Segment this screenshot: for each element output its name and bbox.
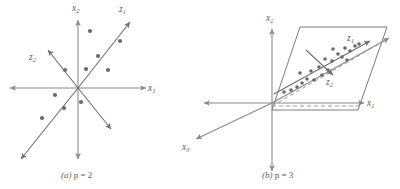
component-axis-z1-panel-b: [274, 41, 370, 94]
axis-label-x1-panel-a: x1: [147, 83, 156, 94]
axis-label-x2-panel-b: x2: [265, 13, 274, 24]
data-point: [331, 47, 335, 51]
data-point: [106, 68, 110, 72]
figure-root: x1 x2 z1 z2 (a) p = 2: [0, 0, 400, 189]
component-label-z2-panel-a: z2: [28, 52, 37, 63]
axis-label-x2-panel-a: x2: [71, 3, 80, 14]
axis-label-x3-panel-b: x3: [181, 142, 190, 153]
component-label-z1-panel-a: z1: [118, 4, 126, 15]
data-point: [345, 58, 349, 62]
data-point: [79, 100, 83, 104]
data-point: [88, 29, 92, 33]
panel-b-component-axes: [274, 41, 370, 94]
data-point: [320, 73, 324, 77]
data-point: [323, 57, 327, 61]
data-point: [298, 71, 302, 75]
data-point: [312, 78, 316, 82]
axis-label-x1-panel-b: x1: [366, 98, 375, 109]
component-axis-z2-positive: [48, 50, 78, 88]
data-point: [84, 67, 88, 71]
panel-a-axes: [10, 20, 146, 159]
data-point: [53, 93, 57, 97]
data-point: [282, 90, 286, 94]
data-point: [343, 46, 347, 50]
data-point: [62, 106, 66, 110]
dashed-guide-x3: [272, 41, 384, 106]
pca-figure-svg: x1 x2 z1 z2 (a) p = 2: [0, 0, 400, 189]
data-point: [357, 42, 361, 46]
component-label-z1-panel-b: z1: [346, 33, 354, 44]
data-point: [336, 52, 340, 56]
panel-a-data-points: [40, 29, 122, 120]
component-axis-z2-negative: [78, 88, 111, 129]
panel-a-caption: (a) p = 2: [61, 170, 92, 180]
component-axis-z1-negative: [21, 88, 78, 159]
panel-a: x1 x2 z1 z2 (a) p = 2: [10, 3, 156, 180]
data-point: [295, 85, 299, 89]
component-axis-z1-positive: [78, 22, 130, 88]
data-point: [63, 68, 67, 72]
axis-x3-positive-panel-b: [196, 103, 272, 139]
panel-b: x1 x2 x3 z1 z2 (b) p = 3: [181, 13, 389, 180]
panel-a-component-axes: [21, 22, 130, 159]
data-point: [289, 88, 293, 92]
data-point: [118, 39, 122, 43]
panel-b-dashed-guides: [272, 41, 384, 106]
data-point: [305, 77, 309, 81]
data-point: [40, 116, 44, 120]
component-label-z2-panel-b: z2: [325, 77, 334, 88]
data-point: [96, 54, 100, 58]
data-point: [300, 81, 304, 85]
data-point: [353, 44, 357, 48]
panel-b-caption: (b) p = 3: [262, 170, 294, 180]
